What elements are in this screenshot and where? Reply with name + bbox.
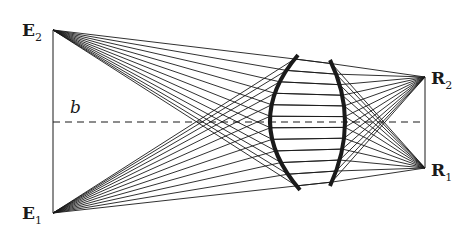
label-r2: R2 bbox=[431, 68, 452, 92]
light-ray bbox=[53, 70, 425, 213]
lens-ray-diagram: E2 E1 R2 R1 b bbox=[0, 0, 476, 231]
label-e2: E2 bbox=[22, 20, 42, 44]
label-e1: E1 bbox=[22, 203, 42, 227]
label-baseline-b: b bbox=[70, 97, 81, 117]
label-r1: R1 bbox=[431, 160, 452, 184]
light-ray bbox=[53, 30, 425, 174]
lens-right-surface bbox=[330, 60, 345, 186]
